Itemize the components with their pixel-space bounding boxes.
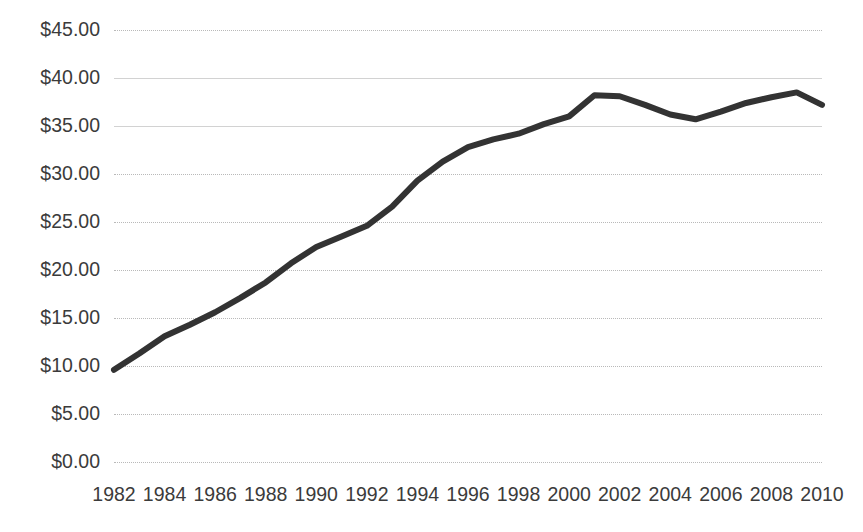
x-tick-label: 1988 — [244, 485, 287, 505]
x-tick-label: 1994 — [396, 485, 439, 505]
gridline — [114, 366, 822, 368]
y-tick-label: $35.00 — [0, 116, 100, 136]
y-axis: $45.00$40.00$35.00$30.00$25.00$20.00$15.… — [0, 0, 100, 532]
y-tick-label: $5.00 — [0, 404, 100, 424]
x-axis: 1982198419861988199019921994199619982000… — [0, 485, 863, 515]
gridline — [114, 30, 822, 32]
gridline — [114, 270, 822, 272]
x-tick-label: 1982 — [92, 485, 135, 505]
x-tick-label: 1984 — [143, 485, 186, 505]
y-tick-label: $0.00 — [0, 452, 100, 472]
line-chart: $45.00$40.00$35.00$30.00$25.00$20.00$15.… — [0, 0, 863, 532]
y-tick-label: $30.00 — [0, 164, 100, 184]
x-tick-label: 2008 — [750, 485, 793, 505]
x-tick-label: 2006 — [699, 485, 742, 505]
y-tick-label: $40.00 — [0, 68, 100, 88]
x-tick-label: 1996 — [446, 485, 489, 505]
gridline — [114, 222, 822, 224]
x-tick-label: 2010 — [800, 485, 843, 505]
x-tick-label: 2004 — [649, 485, 692, 505]
y-tick-label: $15.00 — [0, 308, 100, 328]
gridline — [114, 414, 822, 416]
gridline — [114, 174, 822, 176]
x-tick-label: 1998 — [497, 485, 540, 505]
x-tick-label: 2000 — [547, 485, 590, 505]
y-tick-label: $10.00 — [0, 356, 100, 376]
gridline — [114, 78, 822, 80]
plot-area — [114, 30, 822, 462]
x-tick-label: 2002 — [598, 485, 641, 505]
y-tick-label: $45.00 — [0, 20, 100, 40]
gridline — [114, 126, 822, 128]
x-tick-label: 1986 — [193, 485, 236, 505]
y-tick-label: $20.00 — [0, 260, 100, 280]
gridline — [114, 318, 822, 320]
gridline — [114, 462, 822, 464]
x-tick-label: 1990 — [295, 485, 338, 505]
y-tick-label: $25.00 — [0, 212, 100, 232]
x-tick-label: 1992 — [345, 485, 388, 505]
